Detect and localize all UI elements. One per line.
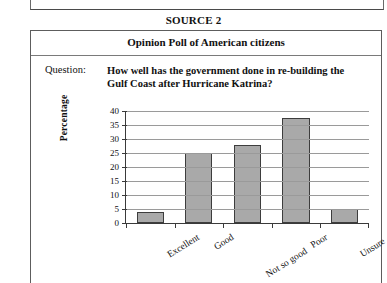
y-axis-tick-label: 25 [110, 149, 119, 158]
gridline [126, 125, 369, 126]
gridline [126, 139, 369, 140]
y-axis-tick [122, 111, 127, 112]
gridline [126, 153, 369, 154]
y-axis-tick [122, 153, 127, 154]
source-panel: Opinion Poll of American citizens Questi… [30, 30, 382, 283]
question-block: Question: How well has the government do… [45, 64, 367, 91]
source-page: SOURCE 2 Opinion Poll of American citize… [0, 0, 387, 283]
y-axis-tick [122, 125, 127, 126]
y-axis-tick-label: 0 [115, 219, 120, 228]
y-axis-tick-label: 20 [110, 163, 119, 172]
panel-title: Opinion Poll of American citizens [31, 36, 381, 48]
plot-area: 0510152025303540 [125, 111, 369, 224]
bar [185, 153, 212, 223]
bar [331, 209, 358, 223]
gridline [126, 209, 369, 210]
x-axis-category-label: Not so good [264, 246, 309, 279]
y-axis-tick-label: 30 [110, 135, 119, 144]
previous-box-edge [30, 0, 384, 10]
y-axis-tick [122, 139, 127, 140]
question-label: Question: [45, 64, 107, 75]
gridline [126, 111, 369, 112]
x-axis-category-label: Unsure [359, 236, 387, 259]
y-axis-tick-label: 10 [110, 191, 119, 200]
gridline [126, 195, 369, 196]
y-axis-tick [122, 181, 127, 182]
gridline [126, 167, 369, 168]
y-axis-tick [122, 209, 127, 210]
x-axis-labels: ExcellentGoodNot so goodPoorUnsure [125, 230, 368, 283]
y-axis-tick-label: 40 [110, 107, 119, 116]
y-axis-label: Percentage [59, 83, 69, 153]
source-heading: SOURCE 2 [0, 14, 387, 26]
x-axis-tick [223, 223, 224, 228]
y-axis-label-wrap: Percentage [61, 125, 73, 217]
x-axis-tick [368, 223, 369, 228]
x-axis-category-label: Poor [309, 232, 330, 250]
x-axis-tick [175, 223, 176, 228]
question-text: How well has the government done in re-b… [107, 64, 357, 91]
x-axis-category-label: Good [212, 232, 235, 252]
y-axis-tick-label: 35 [110, 121, 119, 130]
bar [234, 145, 261, 223]
x-axis-category-label: Excellent [165, 232, 201, 259]
gridline [126, 181, 369, 182]
y-axis-tick-label: 15 [110, 177, 119, 186]
y-axis-tick [122, 195, 127, 196]
y-axis-tick [122, 167, 127, 168]
bar [137, 212, 164, 223]
opinion-poll-bar-chart: Percentage 0510152025303540 ExcellentGoo… [55, 107, 371, 282]
title-divider [31, 55, 381, 56]
x-axis-tick [272, 223, 273, 228]
bar [282, 118, 309, 223]
y-axis-tick [122, 223, 127, 224]
x-axis-tick [320, 223, 321, 228]
y-axis-tick-label: 5 [115, 205, 120, 214]
